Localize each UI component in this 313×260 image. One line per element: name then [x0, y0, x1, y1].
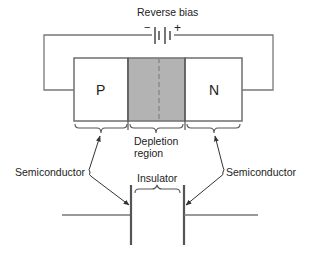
right-semiconductor-label: Semiconductor — [226, 167, 296, 178]
depletion-label-line2: region — [134, 148, 163, 159]
left-semiconductor-label: Semiconductor — [15, 167, 85, 178]
battery-icon — [155, 27, 170, 44]
region-braces — [75, 124, 240, 133]
capacitor-icon — [62, 185, 258, 245]
pn-junction-capacitor-diagram: Reverse bias − + P N Depletion region Se… — [0, 0, 313, 260]
p-label: P — [96, 83, 105, 97]
insulator-label: Insulator — [137, 173, 177, 184]
reverse-bias-label: Reverse bias — [137, 7, 198, 18]
n-label: N — [209, 83, 219, 97]
insulator-brace — [135, 185, 180, 193]
battery-plus-sign: + — [174, 22, 181, 34]
right-semiconductor-arrows — [186, 136, 224, 205]
depletion-region — [128, 58, 185, 121]
left-semiconductor-arrows — [89, 136, 129, 205]
depletion-label-line1: Depletion — [134, 136, 178, 147]
diagram-canvas — [0, 0, 313, 260]
battery-minus-sign: − — [144, 22, 150, 33]
